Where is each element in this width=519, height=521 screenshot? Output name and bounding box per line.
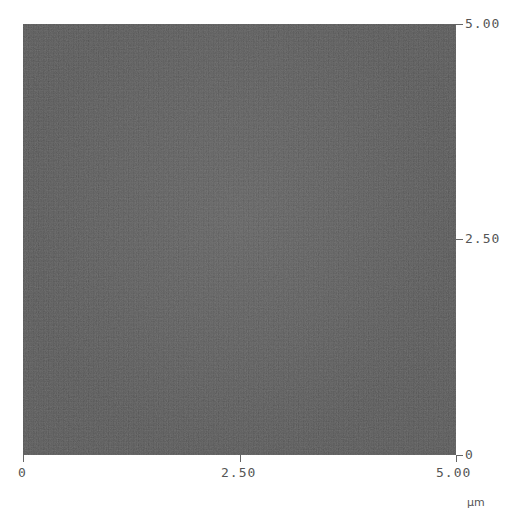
x-tick-left (23, 455, 24, 462)
x-tick-label-mid: 2.50 (221, 465, 256, 480)
x-tick-mid (240, 455, 241, 462)
y-tick-mid (456, 239, 463, 240)
x-tick-right (456, 455, 457, 462)
y-tick-label-mid: 2.50 (465, 231, 500, 246)
x-axis-unit: µm (467, 496, 485, 509)
y-tick-label-bottom: 0 (465, 447, 474, 462)
y-tick-label-top: 5.00 (465, 16, 500, 31)
afm-height-image (23, 24, 456, 455)
x-tick-label-right: 5.00 (436, 465, 471, 480)
surface-texture (23, 24, 456, 455)
x-tick-label-left: 0 (18, 465, 27, 480)
y-tick-top (456, 24, 463, 25)
y-tick-bottom (456, 455, 463, 456)
